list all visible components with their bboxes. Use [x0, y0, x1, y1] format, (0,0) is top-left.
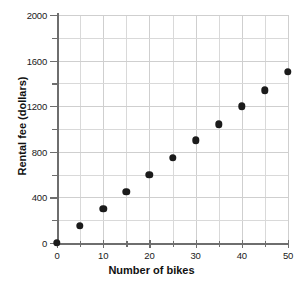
y-axis-tick — [52, 220, 58, 221]
x-axis-tick-label: 40 — [227, 250, 257, 261]
y-axis-title: Rental fee (dollars) — [16, 46, 28, 206]
x-axis-tick — [242, 240, 243, 248]
plot-area — [57, 15, 288, 243]
gridline-horizontal — [57, 15, 288, 16]
x-axis-title: Number of bikes — [0, 264, 303, 276]
gridline-horizontal — [57, 220, 288, 221]
x-axis-tick-label: 10 — [88, 250, 118, 261]
x-axis-tick — [80, 241, 81, 247]
gridline-horizontal — [57, 38, 288, 39]
x-axis-tick — [149, 240, 150, 248]
y-axis-tick — [52, 175, 58, 176]
data-point — [53, 239, 60, 246]
x-axis-tick — [219, 241, 220, 247]
gridline-horizontal — [57, 152, 288, 153]
gridline-horizontal — [57, 129, 288, 130]
y-axis-tick-label: 0 — [0, 238, 47, 249]
x-axis-tick-label: 50 — [273, 250, 303, 261]
data-point — [284, 68, 291, 75]
x-axis-tick — [126, 241, 127, 247]
y-axis-tick — [52, 38, 58, 39]
gridline-horizontal — [57, 197, 288, 198]
gridline-horizontal — [57, 175, 288, 176]
gridline-horizontal — [57, 106, 288, 107]
x-axis-tick-label: 20 — [134, 250, 164, 261]
x-axis-tick-label: 0 — [42, 250, 72, 261]
y-axis-tick — [50, 61, 58, 62]
x-axis-tick — [103, 240, 104, 248]
y-axis-tick — [50, 106, 58, 107]
x-axis-tick — [288, 240, 289, 248]
y-axis-tick — [50, 15, 58, 16]
gridline-horizontal — [57, 83, 288, 84]
y-axis-tick-label: 2000 — [0, 10, 47, 21]
x-axis-tick — [196, 240, 197, 248]
y-axis-tick — [50, 152, 58, 153]
y-axis-tick — [50, 197, 58, 198]
gridline-vertical — [288, 15, 289, 243]
y-axis-tick — [52, 83, 58, 84]
x-axis-tick — [173, 241, 174, 247]
scatter-chart: 040080012001600200001020304050 Number of… — [0, 0, 303, 285]
x-axis-tick — [265, 241, 266, 247]
gridline-horizontal — [57, 61, 288, 62]
x-axis-tick-label: 30 — [181, 250, 211, 261]
y-axis-tick — [52, 129, 58, 130]
